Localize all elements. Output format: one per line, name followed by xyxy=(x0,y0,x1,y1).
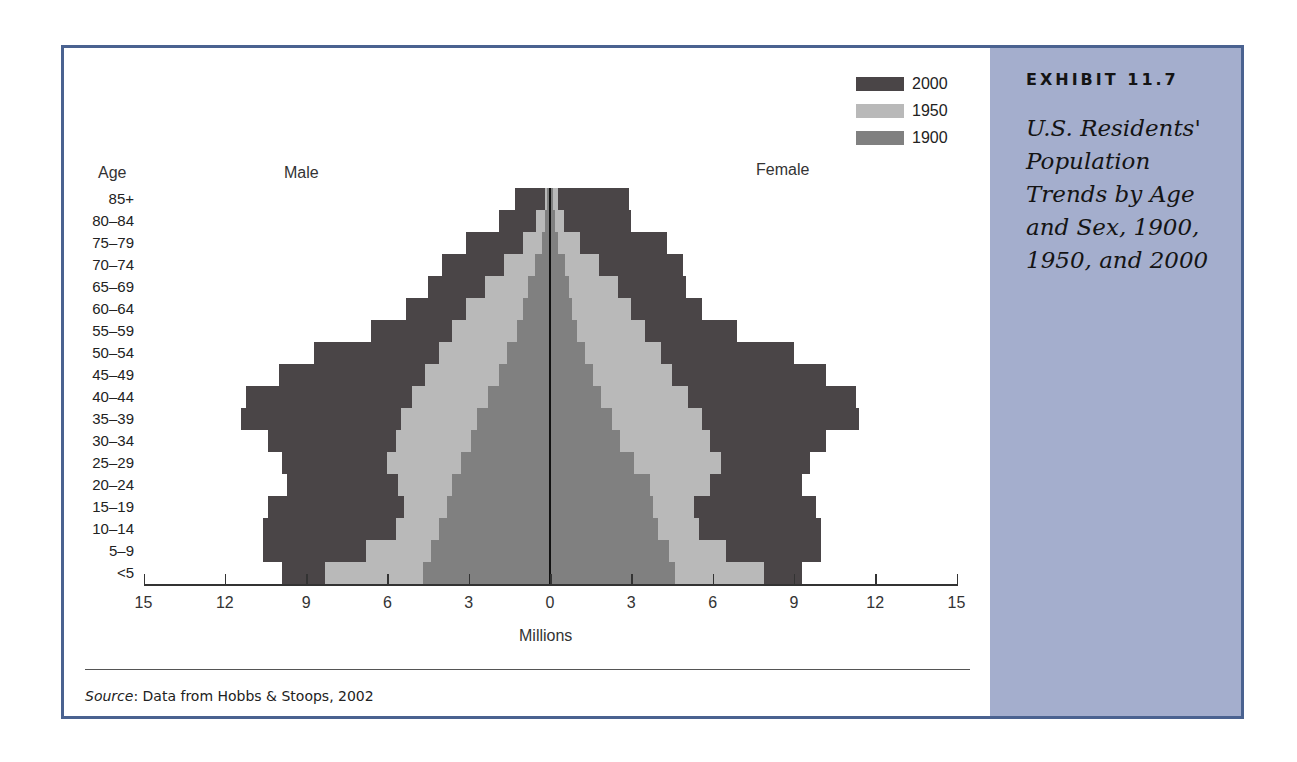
legend-label: 1950 xyxy=(912,102,948,120)
x-axis-tick xyxy=(387,574,389,586)
age-label: 15–19 xyxy=(74,496,134,518)
x-axis-tick xyxy=(469,574,471,586)
exhibit-frame: 200019501900 Age Male Female 85+80–8475–… xyxy=(61,45,1244,719)
bar-male-1900 xyxy=(523,298,550,320)
legend-swatch-1900 xyxy=(856,131,904,145)
bar-female-1900 xyxy=(550,276,569,298)
x-axis-tick xyxy=(713,574,715,586)
x-tick-label: 3 xyxy=(611,594,651,612)
bar-male-1900 xyxy=(535,254,550,276)
bar-female-1900 xyxy=(550,254,565,276)
population-pyramid-chart: 200019501900 Age Male Female 85+80–8475–… xyxy=(64,48,990,716)
bar-male-1900 xyxy=(517,320,550,342)
age-label: 25–29 xyxy=(74,452,134,474)
x-tick-label: 15 xyxy=(937,594,977,612)
age-label: 70–74 xyxy=(74,254,134,276)
bar-female-1900 xyxy=(550,408,612,430)
x-axis-tick xyxy=(794,574,796,586)
x-axis-tick xyxy=(144,574,146,586)
bar-female-1900 xyxy=(550,298,572,320)
bar-male-1900 xyxy=(447,496,550,518)
x-tick-label: 6 xyxy=(693,594,733,612)
x-axis-tick xyxy=(550,574,552,586)
bar-male-1900 xyxy=(461,452,550,474)
source-text: : Data from Hobbs & Stoops, 2002 xyxy=(133,688,373,704)
x-tick-label: 15 xyxy=(124,594,164,612)
bar-female-1900 xyxy=(550,518,658,540)
legend-item-1900: 1900 xyxy=(856,124,948,151)
x-axis-tick xyxy=(957,574,959,586)
bar-male-1900 xyxy=(452,474,550,496)
bar-male-1900 xyxy=(431,540,550,562)
bar-female-1900 xyxy=(550,430,620,452)
legend-label: 1900 xyxy=(912,129,948,147)
age-label: 50–54 xyxy=(74,342,134,364)
legend-swatch-1950 xyxy=(856,104,904,118)
bar-male-1900 xyxy=(507,342,550,364)
age-label: 10–14 xyxy=(74,518,134,540)
age-label: 20–24 xyxy=(74,474,134,496)
bar-female-1900 xyxy=(550,342,585,364)
bar-female-1900 xyxy=(550,364,593,386)
x-tick-label: 6 xyxy=(367,594,407,612)
x-axis-tick xyxy=(225,574,227,586)
bar-male-1900 xyxy=(423,562,550,584)
age-label: 30–34 xyxy=(74,430,134,452)
legend: 200019501900 xyxy=(856,70,948,151)
age-label: 40–44 xyxy=(74,386,134,408)
x-tick-label: 12 xyxy=(205,594,245,612)
bar-male-1900 xyxy=(528,276,550,298)
age-label: 55–59 xyxy=(74,320,134,342)
x-tick-label: 12 xyxy=(855,594,895,612)
y-axis-title: Age xyxy=(98,164,126,182)
source-prefix: Source xyxy=(85,688,133,704)
bar-male-1900 xyxy=(471,430,550,452)
x-tick-label: 3 xyxy=(449,594,489,612)
exhibit-title: U.S. Residents' Population Trends by Age… xyxy=(1026,112,1226,277)
bar-male-1900 xyxy=(488,386,550,408)
age-label: 45–49 xyxy=(74,364,134,386)
exhibit-sidebar: EXHIBIT 11.7 U.S. Residents' Population … xyxy=(990,48,1241,716)
legend-label: 2000 xyxy=(912,75,948,93)
bar-female-1900 xyxy=(550,232,558,254)
center-axis-line xyxy=(549,188,551,584)
female-label: Female xyxy=(756,161,809,179)
bar-female-1900 xyxy=(550,474,650,496)
bar-male-1900 xyxy=(439,518,550,540)
male-label: Male xyxy=(284,164,319,182)
legend-swatch-2000 xyxy=(856,77,904,91)
age-label: 65–69 xyxy=(74,276,134,298)
legend-item-1950: 1950 xyxy=(856,97,948,124)
x-axis-tick xyxy=(306,574,308,586)
source-note: Source: Data from Hobbs & Stoops, 2002 xyxy=(85,688,374,704)
bar-female-1900 xyxy=(550,496,653,518)
x-axis-title: Millions xyxy=(519,627,572,645)
bar-female-1900 xyxy=(550,540,669,562)
age-label: 85+ xyxy=(74,188,134,210)
bar-female-1900 xyxy=(550,562,675,584)
x-tick-label: 9 xyxy=(774,594,814,612)
bar-female-1900 xyxy=(550,386,601,408)
bar-female-2000 xyxy=(550,188,629,210)
age-label: <5 xyxy=(74,562,134,584)
bar-male-1900 xyxy=(477,408,550,430)
age-label: 5–9 xyxy=(74,540,134,562)
age-label: 60–64 xyxy=(74,298,134,320)
x-axis-tick xyxy=(631,574,633,586)
age-label: 80–84 xyxy=(74,210,134,232)
age-label: 35–39 xyxy=(74,408,134,430)
age-label: 75–79 xyxy=(74,232,134,254)
exhibit-label: EXHIBIT 11.7 xyxy=(1026,70,1179,89)
legend-item-2000: 2000 xyxy=(856,70,948,97)
x-axis-tick xyxy=(875,574,877,586)
x-tick-label: 9 xyxy=(286,594,326,612)
bar-male-1900 xyxy=(499,364,550,386)
bar-female-1900 xyxy=(550,320,577,342)
bar-female-1900 xyxy=(550,452,634,474)
x-tick-label: 0 xyxy=(530,594,570,612)
source-divider xyxy=(85,669,970,670)
